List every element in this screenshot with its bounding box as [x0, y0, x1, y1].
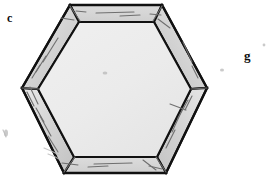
figure-canvas-root: c g: [0, 0, 276, 179]
hexagon-figure-svg: [0, 0, 276, 179]
panel-label-c: c: [7, 12, 12, 24]
panel-label-g: g: [244, 49, 251, 62]
speck-right-upper: [220, 68, 224, 71]
speck-center-face: [103, 71, 108, 74]
rim-segment-top: [70, 5, 162, 22]
rim-segment-bottom: [64, 157, 166, 173]
speck-far-right: [263, 44, 266, 47]
